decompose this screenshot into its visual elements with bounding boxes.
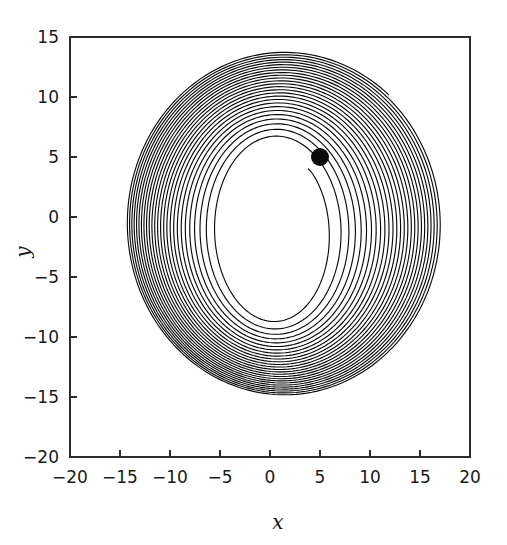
- y-tick-label: 10: [37, 87, 59, 107]
- y-tick-label: −20: [23, 447, 59, 467]
- x-tick-label: −20: [52, 467, 88, 487]
- y-tick-label: −5: [34, 267, 59, 287]
- x-axis-title: x: [272, 510, 283, 534]
- x-tick-label: 15: [409, 467, 431, 487]
- figure-container: −20−15−10−505101520 −20−15−10−5051015 x …: [0, 0, 507, 545]
- x-tick-label: 0: [265, 467, 276, 487]
- y-axis-title: y: [11, 246, 35, 259]
- initial-condition-marker: [311, 148, 329, 166]
- phase-portrait-chart: −20−15−10−505101520 −20−15−10−5051015 x …: [0, 0, 507, 545]
- x-tick-label: −15: [102, 467, 138, 487]
- y-tick-label: 5: [48, 147, 59, 167]
- x-tick-label: 5: [315, 467, 326, 487]
- y-tick-label: 15: [37, 27, 59, 47]
- x-tick-label: −5: [207, 467, 232, 487]
- y-tick-label: 0: [48, 207, 59, 227]
- y-tick-label: −15: [23, 387, 59, 407]
- x-tick-label: −10: [152, 467, 188, 487]
- start-point-marker: [311, 148, 329, 166]
- x-tick-label: 20: [459, 467, 481, 487]
- y-tick-label: −10: [23, 327, 59, 347]
- x-tick-label: 10: [359, 467, 381, 487]
